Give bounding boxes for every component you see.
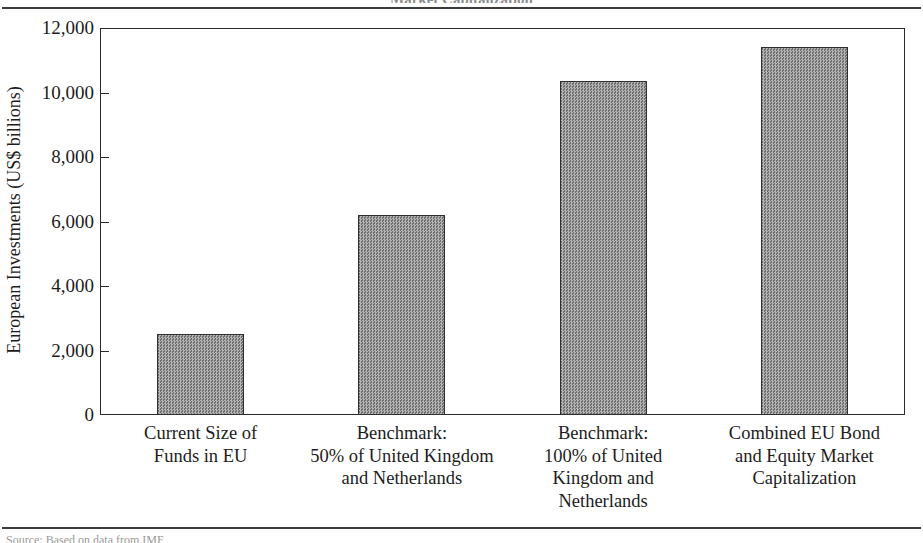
x-axis-category-label: Current Size ofFunds in EU: [100, 422, 301, 467]
x-axis-category-line: Netherlands: [503, 490, 704, 513]
horizontal-rule-bottom: [2, 527, 921, 529]
y-axis-tick-label: 4,000: [8, 276, 94, 295]
y-axis-tick-label: 2,000: [8, 341, 94, 360]
y-axis-tick-label: 10,000: [8, 83, 94, 102]
x-axis-category-line: and Equity Market: [704, 445, 905, 468]
horizontal-rule-top: [2, 7, 921, 9]
bar: [157, 334, 244, 415]
y-axis-tick: [100, 93, 109, 94]
figure-source-partial: Source: Based on data from IMF,: [6, 533, 706, 543]
x-axis-category-label: Benchmark:50% of United Kingdomand Nethe…: [301, 422, 502, 490]
x-axis-category-line: Combined EU Bond: [704, 422, 905, 445]
x-axis-category-line: Benchmark:: [503, 422, 704, 445]
figure-container: Market Capitalization European Investmen…: [0, 0, 923, 543]
bar: [358, 215, 445, 415]
bar: [761, 47, 848, 415]
y-axis-tick-label: 12,000: [8, 18, 94, 37]
x-axis-category-line: Benchmark:: [301, 422, 502, 445]
y-axis-tick: [100, 351, 109, 352]
y-axis-tick-label: 8,000: [8, 147, 94, 166]
x-axis-category-line: Current Size of: [100, 422, 301, 445]
y-axis-tick: [100, 286, 109, 287]
x-axis-category-label: Combined EU Bondand Equity MarketCapital…: [704, 422, 905, 490]
x-axis-category-label: Benchmark:100% of UnitedKingdom andNethe…: [503, 422, 704, 512]
x-axis-category-line: and Netherlands: [301, 467, 502, 490]
y-axis-tick: [100, 157, 109, 158]
x-axis-category-line: Funds in EU: [100, 445, 301, 468]
x-axis-category-line: 50% of United Kingdom: [301, 445, 502, 468]
bar: [560, 81, 647, 415]
y-axis-tick-label: 0: [8, 405, 94, 424]
x-axis-category-line: Capitalization: [704, 467, 905, 490]
x-axis-category-line: Kingdom and: [503, 467, 704, 490]
y-axis-tick-label: 6,000: [8, 212, 94, 231]
figure-caption-top-partial: Market Capitalization: [0, 0, 923, 3]
y-axis-tick: [100, 222, 109, 223]
x-axis-category-line: 100% of United: [503, 445, 704, 468]
